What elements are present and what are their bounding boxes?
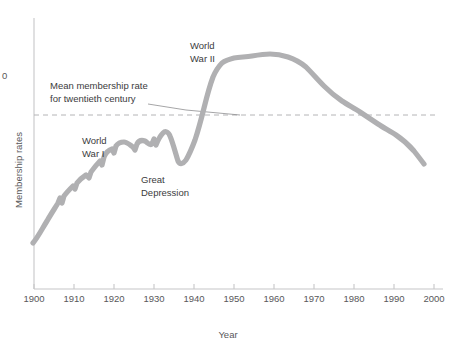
x-tick-label-1900: 1900 (23, 293, 44, 304)
x-tick-label-1980: 1980 (343, 293, 364, 304)
y-tick-label-partial: 0 (2, 70, 7, 81)
x-tick-label-1930: 1930 (143, 293, 164, 304)
x-tick-label-1960: 1960 (263, 293, 284, 304)
annotation-world-war-2-line-2: War II (190, 53, 215, 64)
x-tick-label-2000: 2000 (423, 293, 444, 304)
annotation-world-war-2-line-1: World (190, 40, 215, 51)
mean-annotation-leader-line (148, 104, 240, 115)
mean-annotation-line-2: for twentieth century (50, 93, 136, 104)
x-axis-ticks (34, 284, 434, 289)
annotation-world-war-1-line-2: War I (82, 148, 104, 159)
mean-annotation-line-1: Mean membership rate (50, 80, 148, 91)
y-axis-title: Membership rates (13, 132, 24, 208)
x-tick-label-1970: 1970 (303, 293, 324, 304)
x-tick-label-1990: 1990 (383, 293, 404, 304)
x-tick-label-1940: 1940 (183, 293, 204, 304)
x-tick-label-1910: 1910 (63, 293, 84, 304)
annotation-world-war-1-line-1: World (82, 135, 107, 146)
chart-container: 1900 1910 1920 1930 1940 1950 1960 1970 … (0, 0, 462, 351)
x-tick-label-1950: 1950 (223, 293, 244, 304)
x-axis-title: Year (218, 329, 237, 340)
x-tick-label-1920: 1920 (103, 293, 124, 304)
annotation-great-depression-line-2: Depression (141, 187, 189, 198)
annotation-great-depression-line-1: Great (141, 174, 165, 185)
line-chart-figure: 1900 1910 1920 1930 1940 1950 1960 1970 … (0, 0, 462, 351)
